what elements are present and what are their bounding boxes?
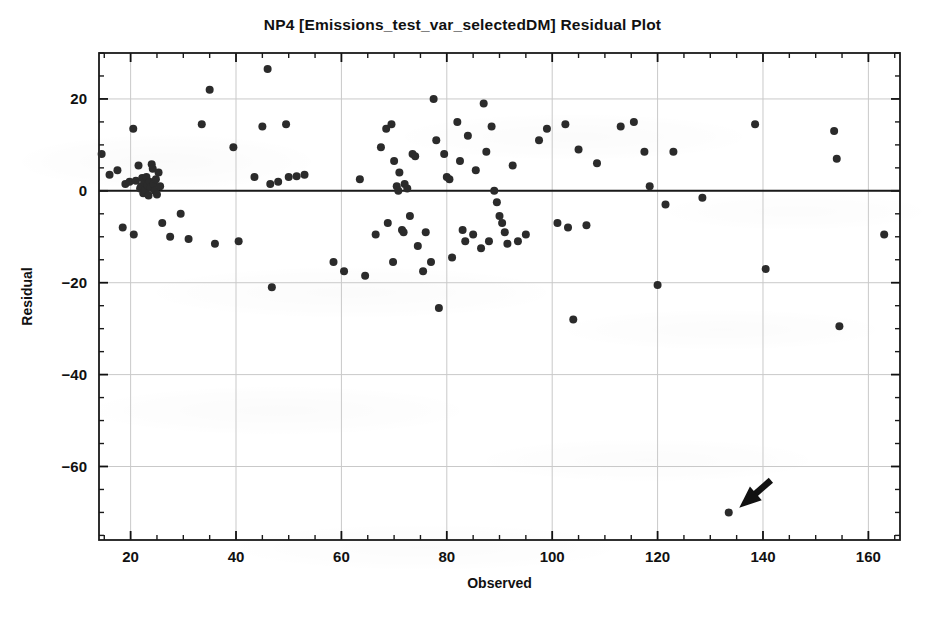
data-point bbox=[496, 212, 504, 220]
y-tick-label: −20 bbox=[62, 274, 87, 291]
data-point bbox=[725, 508, 733, 516]
data-point bbox=[282, 120, 290, 128]
x-tick-label: 120 bbox=[645, 548, 670, 565]
data-point bbox=[661, 201, 669, 209]
annotations-group bbox=[739, 480, 771, 508]
x-tick-label: 140 bbox=[750, 548, 775, 565]
data-point bbox=[751, 120, 759, 128]
data-point bbox=[177, 210, 185, 218]
data-point bbox=[833, 155, 841, 163]
data-point bbox=[411, 152, 419, 160]
data-point bbox=[264, 65, 272, 73]
data-point bbox=[384, 219, 392, 227]
data-point bbox=[156, 182, 164, 190]
y-axis-title: Residual bbox=[19, 267, 35, 325]
x-tick-label: 100 bbox=[540, 548, 565, 565]
data-point bbox=[498, 219, 506, 227]
y-tick-label: −40 bbox=[62, 366, 87, 383]
data-point bbox=[198, 120, 206, 128]
data-point bbox=[698, 194, 706, 202]
y-tick-label: −60 bbox=[62, 458, 87, 475]
data-point bbox=[274, 178, 282, 186]
data-point bbox=[480, 100, 488, 108]
data-point bbox=[211, 240, 219, 248]
residual-plot-figure: NP4 [Emissions_test_var_selectedDM] Resi… bbox=[0, 0, 925, 622]
data-point bbox=[301, 171, 309, 179]
data-point bbox=[617, 123, 625, 131]
data-point bbox=[459, 226, 467, 234]
data-point bbox=[394, 187, 402, 195]
gridlines-group bbox=[99, 53, 900, 540]
data-point bbox=[361, 272, 369, 280]
data-point bbox=[330, 258, 338, 266]
data-point bbox=[258, 123, 266, 131]
x-tick-label: 20 bbox=[122, 548, 139, 565]
data-point bbox=[762, 265, 770, 273]
data-point bbox=[564, 224, 572, 232]
data-point bbox=[654, 281, 662, 289]
data-point bbox=[522, 230, 530, 238]
data-point bbox=[493, 198, 501, 206]
data-point bbox=[129, 125, 137, 133]
data-point bbox=[206, 86, 214, 94]
data-point bbox=[135, 162, 143, 170]
data-point bbox=[501, 228, 509, 236]
data-point bbox=[268, 283, 276, 291]
data-point bbox=[503, 240, 511, 248]
data-point bbox=[403, 185, 411, 193]
scatter-plot-canvas: 20406080100120140160200−20−40−60 Observe… bbox=[0, 0, 925, 622]
data-point bbox=[469, 230, 477, 238]
data-point bbox=[414, 242, 422, 250]
data-point bbox=[98, 150, 106, 158]
data-point bbox=[461, 237, 469, 245]
data-point bbox=[119, 224, 127, 232]
data-point bbox=[488, 123, 496, 131]
data-point bbox=[569, 315, 577, 323]
data-point bbox=[543, 125, 551, 133]
data-point bbox=[387, 120, 395, 128]
data-point bbox=[229, 143, 237, 151]
x-axis-title: Observed bbox=[467, 575, 532, 591]
data-point bbox=[514, 237, 522, 245]
data-point bbox=[166, 233, 174, 241]
data-point bbox=[372, 230, 380, 238]
data-point bbox=[266, 180, 274, 188]
data-point bbox=[482, 148, 490, 156]
x-tick-label: 80 bbox=[438, 548, 455, 565]
data-point bbox=[158, 219, 166, 227]
data-point bbox=[435, 304, 443, 312]
data-point bbox=[464, 132, 472, 140]
axis-titles-group: ObservedResidual bbox=[19, 267, 532, 591]
x-tick-label: 60 bbox=[333, 548, 350, 565]
data-point bbox=[669, 148, 677, 156]
data-point bbox=[830, 127, 838, 135]
data-point bbox=[155, 168, 163, 176]
data-point bbox=[448, 253, 456, 261]
data-point bbox=[553, 219, 561, 227]
data-point bbox=[406, 212, 414, 220]
y-tick-label: 0 bbox=[79, 182, 87, 199]
data-point bbox=[235, 237, 243, 245]
data-point bbox=[640, 148, 648, 156]
data-point bbox=[152, 175, 160, 183]
data-point bbox=[400, 228, 408, 236]
data-point bbox=[630, 118, 638, 126]
data-point bbox=[430, 95, 438, 103]
data-point bbox=[575, 145, 583, 153]
data-point bbox=[477, 244, 485, 252]
data-point bbox=[419, 267, 427, 275]
data-point bbox=[250, 173, 258, 181]
data-point bbox=[106, 171, 114, 179]
data-point bbox=[390, 157, 398, 165]
data-point bbox=[395, 168, 403, 176]
data-point bbox=[185, 235, 193, 243]
data-point bbox=[340, 267, 348, 275]
y-tick-label: 20 bbox=[70, 90, 87, 107]
outlier-callout-arrow bbox=[739, 480, 771, 508]
data-point bbox=[835, 322, 843, 330]
data-point bbox=[485, 237, 493, 245]
data-point bbox=[561, 120, 569, 128]
data-point bbox=[285, 173, 293, 181]
data-point bbox=[427, 258, 435, 266]
data-point bbox=[880, 230, 888, 238]
